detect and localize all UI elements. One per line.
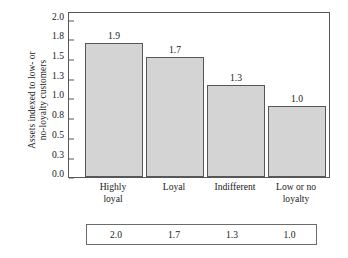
y-tick-label-6: 1.5	[52, 50, 64, 61]
bar-value-highly-loyal: 1.9	[85, 30, 143, 41]
table-cell-highly-loyal: 2.0	[87, 225, 145, 244]
bar-loyal	[146, 57, 204, 177]
category-label-low-or-no-loyalty-line-2: loyalty	[265, 193, 327, 205]
category-label-indifferent-line-1: Indifferent	[202, 181, 268, 193]
table-cell-loyal: 1.7	[145, 225, 203, 244]
y-axis-tick-labels: 0.0 0.3 0.5 0.8 1.0 1.3 1.5 1.8 2.0	[36, 8, 64, 180]
category-label-indifferent: Indifferent	[202, 181, 268, 193]
bar-indifferent	[207, 85, 265, 177]
category-label-low-or-no-loyalty: Low or no loyalty	[265, 181, 327, 204]
category-label-highly-loyal: Highly loyal	[84, 181, 142, 204]
category-label-highly-loyal-line-2: loyal	[84, 193, 142, 205]
y-tick-mark-0	[69, 178, 74, 179]
table-cell-indifferent: 1.3	[203, 225, 261, 244]
y-tick-label-4: 1.0	[52, 89, 64, 100]
bar-chart-figure: Assets indexed to low- or no-loyalty cus…	[0, 0, 348, 258]
bar-low-or-no-loyalty	[268, 106, 326, 177]
bar-value-loyal: 1.7	[146, 44, 204, 55]
category-label-loyal: Loyal	[145, 181, 203, 193]
y-tick-label-7: 1.8	[52, 30, 64, 41]
bars-layer: 1.9 1.7 1.3 1.0	[69, 13, 329, 177]
y-tick-label-0: 0.0	[52, 168, 64, 179]
category-label-loyal-line-1: Loyal	[145, 181, 203, 193]
bar-group-low-or-no-loyalty: 1.0	[268, 13, 326, 177]
bar-value-low-or-no-loyalty: 1.0	[268, 93, 326, 104]
plot-area: 1.9 1.7 1.3 1.0	[68, 12, 330, 178]
bar-highly-loyal	[85, 43, 143, 177]
table-cell-low-or-no-loyalty: 1.0	[261, 225, 318, 244]
x-axis-category-labels: Highly loyal Loyal Indifferent Low or no…	[68, 181, 330, 217]
data-value-table: 2.0 1.7 1.3 1.0	[86, 224, 317, 245]
category-label-highly-loyal-line-1: Highly	[84, 181, 142, 193]
bar-group-loyal: 1.7	[146, 13, 204, 177]
bar-group-highly-loyal: 1.9	[85, 13, 143, 177]
y-tick-label-8: 2.0	[52, 10, 64, 21]
y-tick-label-3: 0.8	[52, 109, 64, 120]
bar-value-indifferent: 1.3	[207, 72, 265, 83]
y-tick-label-1: 0.3	[52, 148, 64, 159]
y-tick-label-2: 0.5	[52, 128, 64, 139]
y-tick-label-5: 1.3	[52, 69, 64, 80]
bar-group-indifferent: 1.3	[207, 13, 265, 177]
category-label-low-or-no-loyalty-line-1: Low or no	[265, 181, 327, 193]
